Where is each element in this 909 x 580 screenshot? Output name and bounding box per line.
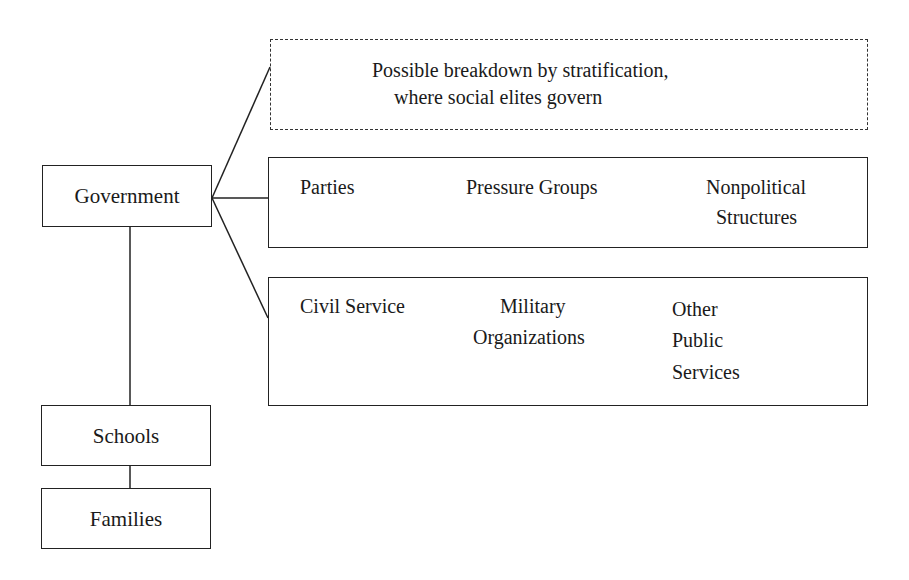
stratification-text-line2: where social elites govern [394, 84, 602, 110]
schools-node: Schools [41, 405, 211, 466]
item-other-line2: Public [672, 327, 723, 353]
connector-government-to-public [212, 198, 268, 318]
item-other-line3: Services [672, 359, 740, 385]
schools-label: Schools [42, 423, 210, 448]
government-label: Government [43, 184, 211, 209]
item-parties: Parties [300, 174, 354, 200]
item-nonpolitical-line2: Structures [716, 204, 797, 230]
item-military-line1: Military [500, 293, 566, 319]
government-node: Government [42, 165, 212, 227]
item-other-line1: Other [672, 296, 718, 322]
item-nonpolitical-line1: Nonpolitical [706, 174, 806, 200]
political-structures-box [268, 157, 868, 248]
item-civil-service: Civil Service [300, 293, 405, 319]
families-label: Families [42, 506, 210, 531]
item-pressure-groups: Pressure Groups [466, 174, 598, 200]
families-node: Families [41, 488, 211, 549]
connector-government-to-stratification [212, 67, 270, 198]
item-military-line2: Organizations [473, 324, 585, 350]
stratification-text-line1: Possible breakdown by stratification, [372, 57, 669, 83]
